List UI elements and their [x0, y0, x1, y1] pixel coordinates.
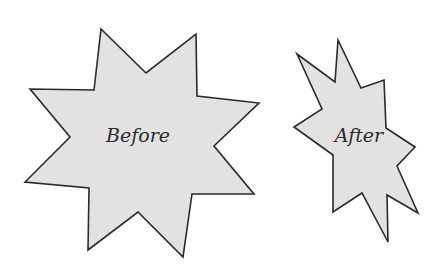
after-star-group: After: [294, 40, 418, 242]
diagram-canvas: Before After: [0, 0, 437, 266]
after-label: After: [333, 124, 385, 146]
before-star-group: Before: [25, 29, 259, 257]
before-label: Before: [105, 124, 170, 146]
